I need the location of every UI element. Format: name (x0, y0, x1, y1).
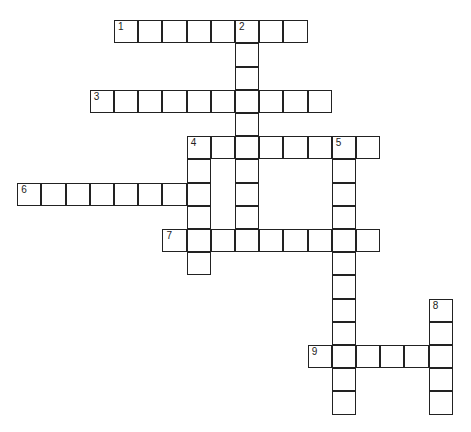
crossword-cell[interactable] (356, 136, 380, 159)
crossword-cell[interactable]: 7 (162, 229, 186, 252)
crossword-cell[interactable] (235, 136, 259, 159)
crossword-cell[interactable] (235, 159, 259, 182)
crossword-cell[interactable] (211, 229, 235, 252)
crossword-cell[interactable] (308, 229, 332, 252)
crossword-cell[interactable] (259, 90, 283, 113)
clue-number: 4 (191, 138, 197, 148)
crossword-cell[interactable] (429, 322, 453, 345)
crossword-cell[interactable] (138, 20, 162, 43)
crossword-cell[interactable]: 4 (187, 136, 211, 159)
crossword-cell[interactable] (259, 136, 283, 159)
crossword-cell[interactable] (308, 136, 332, 159)
crossword-cell[interactable] (332, 252, 356, 275)
crossword-cell[interactable] (211, 20, 235, 43)
crossword-cell[interactable] (380, 345, 404, 368)
crossword-cell[interactable] (114, 183, 138, 206)
crossword-cell[interactable] (332, 345, 356, 368)
crossword-cell[interactable] (138, 90, 162, 113)
crossword-cell[interactable]: 2 (235, 20, 259, 43)
crossword-cell[interactable] (235, 43, 259, 66)
crossword-cell[interactable] (283, 90, 307, 113)
crossword-cell[interactable] (235, 113, 259, 136)
crossword-cell[interactable] (162, 20, 186, 43)
crossword-cell[interactable] (429, 391, 453, 414)
crossword-cell[interactable] (187, 90, 211, 113)
crossword-cell[interactable] (356, 345, 380, 368)
crossword-cell[interactable]: 5 (332, 136, 356, 159)
crossword-cell[interactable] (283, 229, 307, 252)
crossword-cell[interactable] (332, 206, 356, 229)
crossword-cell[interactable] (187, 229, 211, 252)
crossword-cell[interactable] (429, 345, 453, 368)
crossword-cell[interactable] (235, 67, 259, 90)
crossword-cell[interactable]: 6 (17, 183, 41, 206)
clue-number: 7 (166, 231, 172, 241)
crossword-cell[interactable] (235, 183, 259, 206)
crossword-cell[interactable] (259, 229, 283, 252)
crossword-cell[interactable]: 9 (308, 345, 332, 368)
crossword-cell[interactable] (332, 322, 356, 345)
crossword-cell[interactable] (187, 206, 211, 229)
crossword-cell[interactable] (404, 345, 428, 368)
crossword-cell[interactable] (235, 90, 259, 113)
clue-number: 8 (433, 301, 439, 311)
crossword-cell[interactable] (332, 391, 356, 414)
crossword-cell[interactable] (211, 90, 235, 113)
crossword-cell[interactable] (187, 252, 211, 275)
crossword-cell[interactable]: 3 (90, 90, 114, 113)
crossword-cell[interactable] (308, 90, 332, 113)
crossword-cell[interactable] (332, 275, 356, 298)
crossword-cell[interactable]: 1 (114, 20, 138, 43)
crossword-cell[interactable] (187, 183, 211, 206)
crossword-cell[interactable] (429, 368, 453, 391)
crossword-cell[interactable] (66, 183, 90, 206)
crossword-cell[interactable] (138, 183, 162, 206)
crossword-cell[interactable] (187, 20, 211, 43)
crossword-cell[interactable] (235, 206, 259, 229)
crossword-cell[interactable] (187, 159, 211, 182)
crossword-cell[interactable] (283, 20, 307, 43)
clue-number: 1 (118, 22, 124, 32)
crossword-cell[interactable] (332, 229, 356, 252)
crossword-cell[interactable] (356, 229, 380, 252)
crossword-cell[interactable] (211, 136, 235, 159)
clue-number: 2 (239, 22, 245, 32)
clue-number: 6 (21, 185, 27, 195)
crossword-cell[interactable]: 8 (429, 299, 453, 322)
clue-number: 3 (94, 92, 100, 102)
crossword-cell[interactable] (114, 90, 138, 113)
clue-number: 5 (336, 138, 342, 148)
crossword-cell[interactable] (162, 183, 186, 206)
crossword-cell[interactable] (332, 299, 356, 322)
crossword-cell[interactable] (162, 90, 186, 113)
crossword-grid: 123456789 (0, 0, 471, 432)
crossword-cell[interactable] (90, 183, 114, 206)
crossword-cell[interactable] (259, 20, 283, 43)
crossword-cell[interactable] (235, 229, 259, 252)
crossword-cell[interactable] (332, 159, 356, 182)
crossword-cell[interactable] (41, 183, 65, 206)
crossword-cell[interactable] (332, 368, 356, 391)
clue-number: 9 (312, 347, 318, 357)
crossword-cell[interactable] (283, 136, 307, 159)
crossword-cell[interactable] (332, 183, 356, 206)
